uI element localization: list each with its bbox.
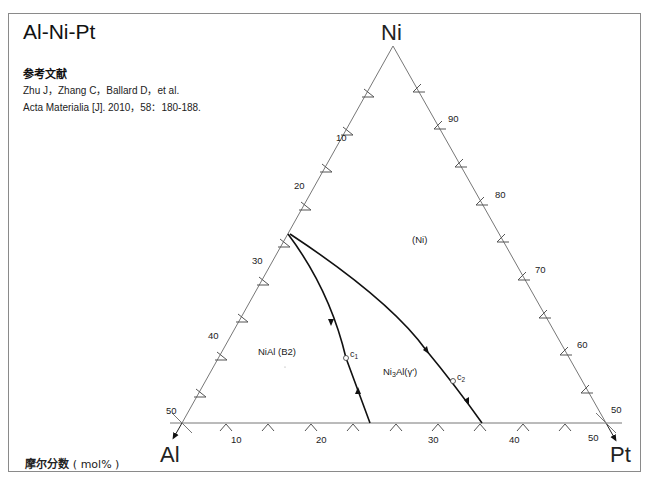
right-tick-label: 80 (495, 189, 506, 200)
right-edge-ticks (413, 84, 593, 393)
region-label-nial: NiAl (B2) (258, 346, 296, 357)
bottom-tick-label: 50 (588, 432, 599, 443)
phase-boundaries (288, 234, 482, 423)
left-tick-label: 40 (208, 330, 219, 341)
point-c2-label: c2 (457, 372, 466, 383)
curve-c1 (288, 234, 370, 423)
region-label-ni: (Ni) (412, 234, 427, 245)
right-tick-label: 60 (577, 339, 588, 350)
curve-arrows (328, 319, 469, 405)
left-tick-label: 20 (294, 180, 305, 191)
corner-label-ni: Ni (381, 20, 402, 45)
right-tick-label: 90 (448, 113, 459, 124)
left-axis-labels: 10 20 30 40 50 (166, 132, 347, 416)
point-c2-marker (451, 379, 456, 384)
bottom-tick-label: 10 (231, 434, 242, 445)
point-c1-label: c1 (350, 349, 359, 360)
up-arrow-icon (355, 387, 361, 394)
curve-c2 (290, 234, 482, 423)
left-tick-label: 30 (252, 255, 263, 266)
right-tick-label: 70 (535, 264, 546, 275)
right-tick-label: 50 (611, 404, 622, 415)
bottom-tick-label: 40 (509, 434, 520, 445)
ternary-diagram: 10 20 30 40 50 90 80 70 60 50 10 20 30 4… (0, 0, 654, 488)
right-axis-labels: 90 80 70 60 50 (448, 113, 622, 415)
bottom-axis-labels: 10 20 30 40 50 (231, 432, 599, 445)
left-tick-label: 50 (166, 405, 177, 416)
left-tick-label: 10 (336, 132, 347, 143)
point-c1-marker (344, 356, 349, 361)
stray-dot (284, 366, 285, 367)
bottom-edge-ticks (220, 424, 571, 431)
al-arrow-icon (174, 423, 182, 437)
corner-label-pt: Pt (610, 442, 631, 467)
bottom-tick-label: 20 (316, 434, 327, 445)
region-label-ni3al: Ni3Al(γ') (383, 366, 417, 378)
corner-label-al: Al (160, 442, 180, 467)
down-arrow-icon (328, 319, 334, 326)
bottom-tick-label: 30 (428, 434, 439, 445)
